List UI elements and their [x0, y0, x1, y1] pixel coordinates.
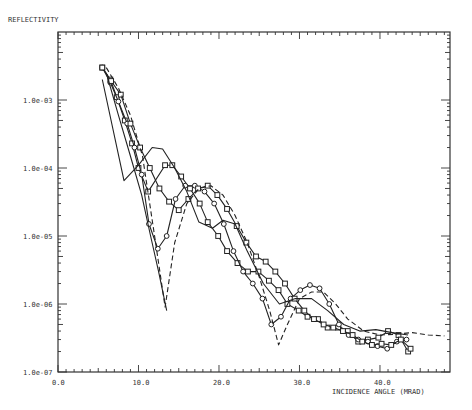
circle-marker — [260, 296, 265, 301]
square-marker — [283, 281, 288, 286]
series-solid-2 — [106, 73, 166, 311]
square-marker — [197, 201, 202, 206]
square-marker — [312, 317, 317, 322]
circle-marker — [279, 314, 284, 319]
series-circles-1 — [100, 65, 409, 351]
circle-marker — [317, 286, 322, 291]
y-tick-label: 1.0e-06 — [23, 301, 53, 309]
y-tick-label: 1.0e-03 — [23, 97, 53, 105]
circle-marker — [212, 201, 217, 206]
circle-marker — [202, 189, 207, 194]
circle-marker — [116, 99, 121, 104]
circle-marker — [132, 145, 137, 150]
square-marker — [360, 339, 365, 344]
circle-marker — [164, 234, 169, 239]
square-marker — [273, 269, 278, 274]
square-marker — [302, 308, 307, 313]
series-dashed — [106, 68, 444, 345]
square-marker — [376, 335, 381, 340]
square-marker — [215, 193, 220, 198]
circle-marker — [231, 249, 236, 254]
square-marker — [157, 186, 162, 191]
x-tick-label: 20.0 — [213, 379, 230, 387]
square-marker — [276, 288, 281, 293]
reflectivity-chart: REFLECTIVITY 0.010.020.030.040.01.0e-031… — [0, 0, 472, 410]
circle-marker — [298, 288, 303, 293]
square-marker — [389, 343, 394, 348]
square-marker — [147, 166, 152, 171]
square-marker — [225, 249, 230, 254]
square-marker — [350, 333, 355, 338]
square-marker — [266, 278, 271, 283]
square-marker — [398, 337, 403, 342]
square-marker — [216, 234, 221, 239]
circle-marker — [337, 322, 342, 327]
tick-labels: 0.010.020.030.040.01.0e-031.0e-041.0e-05… — [23, 97, 391, 387]
data-series — [100, 65, 445, 354]
square-marker — [296, 308, 301, 313]
series-solid-1 — [102, 80, 408, 336]
y-tick-label: 1.0e-07 — [23, 369, 53, 377]
square-marker — [246, 269, 251, 274]
x-axis-label: INCIDENCE ANGLE (MRAD) — [332, 388, 425, 396]
square-marker — [167, 199, 172, 204]
circle-marker — [173, 197, 178, 202]
circle-marker — [250, 281, 255, 286]
y-axis-label: REFLECTIVITY — [8, 16, 59, 24]
y-tick-label: 1.0e-05 — [23, 233, 53, 241]
square-marker — [188, 186, 193, 191]
square-marker — [341, 329, 346, 334]
square-marker — [408, 346, 413, 351]
square-marker — [163, 163, 168, 168]
circle-marker — [221, 222, 226, 227]
y-tick-label: 1.0e-04 — [23, 165, 53, 173]
square-marker — [370, 343, 375, 348]
circle-marker — [241, 269, 246, 274]
x-tick-label: 0.0 — [52, 379, 65, 387]
plot-axes — [58, 32, 450, 372]
square-marker — [100, 65, 105, 70]
square-marker — [254, 254, 259, 259]
square-marker — [321, 322, 326, 327]
square-marker — [225, 207, 230, 212]
square-marker — [176, 208, 181, 213]
square-marker — [205, 220, 210, 225]
x-tick-label: 30.0 — [293, 379, 310, 387]
circle-marker — [308, 283, 313, 288]
x-tick-label: 10.0 — [132, 379, 149, 387]
circle-marker — [139, 172, 144, 177]
square-marker — [379, 341, 384, 346]
square-marker — [263, 259, 268, 264]
x-tick-label: 40.0 — [374, 379, 391, 387]
square-marker — [331, 325, 336, 330]
circle-marker — [327, 302, 332, 307]
circle-marker — [404, 337, 409, 342]
